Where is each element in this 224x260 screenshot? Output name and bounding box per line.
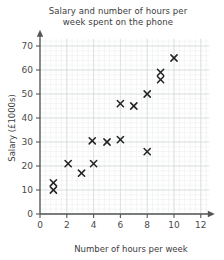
y-tick-label: 60	[22, 65, 34, 75]
y-tick-label: 0	[27, 209, 33, 219]
y-tick-label: 20	[22, 161, 34, 171]
y-tick-label: 70	[22, 41, 34, 51]
y-axis-title: Salary (£1000s)	[7, 94, 17, 162]
x-tick-label: 4	[91, 220, 97, 230]
x-axis-title: Number of hours per week	[74, 244, 188, 254]
x-tick-label: 0	[37, 220, 43, 230]
y-tick-label: 10	[22, 185, 34, 195]
x-tick-label: 8	[144, 220, 150, 230]
x-tick-label: 12	[195, 220, 206, 230]
x-tick-label: 10	[168, 220, 180, 230]
y-tick-label: 30	[22, 137, 34, 147]
plot-area: 024681012 010203040506070 Number of hour…	[0, 0, 224, 260]
x-tick-label: 6	[118, 220, 124, 230]
y-axis-tick-labels: 010203040506070	[22, 41, 34, 219]
minor-gridlines	[40, 39, 209, 214]
data-point-marker	[89, 138, 95, 144]
y-tick-label: 50	[22, 89, 34, 99]
x-tick-label: 2	[64, 220, 70, 230]
y-tick-label: 40	[22, 113, 34, 123]
scatter-chart-figure: Salary and number of hours per week spen…	[0, 0, 224, 260]
x-axis-tick-labels: 024681012	[37, 220, 206, 230]
